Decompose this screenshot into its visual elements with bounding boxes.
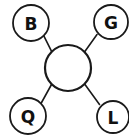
- leaf-node-b-label: B: [25, 14, 38, 34]
- leaf-node-b[interactable]: B: [13, 5, 49, 41]
- leaf-node-q[interactable]: Q: [10, 98, 46, 134]
- leaf-node-q-label: Q: [21, 107, 35, 127]
- leaf-node-g[interactable]: G: [94, 5, 128, 39]
- leaf-node-l[interactable]: L: [97, 101, 129, 133]
- star-graph-diagram: B G Q L: [0, 0, 129, 138]
- leaf-node-l-label: L: [108, 108, 119, 128]
- center-node[interactable]: [45, 45, 91, 91]
- leaf-node-g-label: G: [104, 13, 118, 33]
- center-node-circle[interactable]: [45, 45, 91, 91]
